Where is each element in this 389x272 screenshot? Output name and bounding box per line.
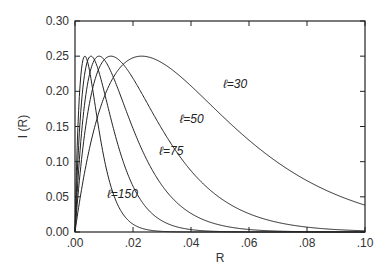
x-axis-label: R xyxy=(216,251,225,265)
curve-ℓ=150 xyxy=(75,56,365,232)
x-tick-label: .00 xyxy=(67,236,84,250)
curve-annotation: ℓ=30 xyxy=(223,77,248,91)
x-tick-label: .08 xyxy=(299,236,316,250)
curve-annotation: ℓ=150 xyxy=(107,187,138,201)
y-tick-label: 0.05 xyxy=(46,190,70,204)
y-tick-label: 0.10 xyxy=(46,155,70,169)
x-tick-label: .06 xyxy=(241,236,258,250)
y-tick-label: 0.20 xyxy=(46,84,70,98)
y-tick-label: 0.25 xyxy=(46,49,70,63)
y-tick-label: 0.30 xyxy=(46,14,70,28)
curve-annotation: ℓ=50 xyxy=(179,112,204,126)
x-tick-label: .04 xyxy=(183,236,200,250)
y-axis-label: I (R) xyxy=(16,115,30,138)
y-tick-label: 0.15 xyxy=(46,120,70,134)
x-tick-label: .02 xyxy=(125,236,142,250)
y-tick-label: 0.00 xyxy=(46,225,70,239)
curve-annotation: ℓ=75 xyxy=(159,144,184,158)
line-chart: .00.02.04.06.08.100.000.050.100.150.200.… xyxy=(0,0,389,272)
x-tick-label: .10 xyxy=(357,236,374,250)
